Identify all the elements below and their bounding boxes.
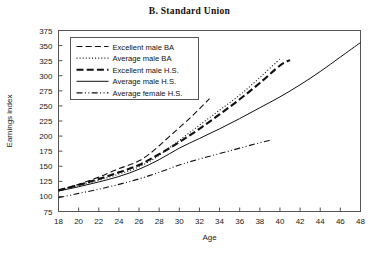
y-tick-label: 150	[39, 162, 53, 171]
x-tick-label: 36	[235, 217, 244, 226]
x-tick-label: 28	[155, 217, 164, 226]
y-axis-title: Earnings index	[5, 95, 14, 148]
y-tick-label: 300	[39, 72, 53, 81]
y-tick-label: 175	[39, 147, 53, 156]
legend-label: Excellent male H.S.	[113, 66, 179, 75]
y-tick-label: 200	[39, 132, 53, 141]
y-tick-label: 125	[39, 177, 53, 186]
x-tick-label: 46	[336, 217, 345, 226]
x-tick-label: 34	[215, 217, 224, 226]
x-axis-ticks: 18202224262830323436384042444648	[54, 208, 365, 226]
x-tick-label: 22	[94, 217, 103, 226]
legend-label: Average male H.S.	[113, 77, 177, 86]
y-tick-label: 75	[44, 208, 53, 217]
x-tick-label: 32	[195, 217, 204, 226]
x-tick-label: 30	[175, 217, 184, 226]
x-tick-label: 20	[74, 217, 83, 226]
y-tick-label: 250	[39, 102, 53, 111]
y-tick-label: 275	[39, 87, 53, 96]
x-tick-label: 18	[54, 217, 63, 226]
chart-legend: Excellent male BAAverage male BAExcellen…	[71, 38, 199, 100]
line-chart: 75100125150175200225250275300325350375 1…	[0, 0, 379, 261]
y-tick-label: 100	[39, 192, 53, 201]
x-tick-label: 42	[296, 217, 305, 226]
y-tick-label: 325	[39, 57, 53, 66]
legend-label: Average male BA	[113, 54, 173, 63]
series-line	[59, 140, 270, 197]
legend-label: Excellent male BA	[113, 43, 176, 52]
legend-label: Average female H.S.	[113, 89, 183, 98]
x-tick-label: 24	[114, 217, 123, 226]
x-tick-label: 40	[276, 217, 285, 226]
x-tick-label: 44	[316, 217, 325, 226]
x-tick-label: 38	[255, 217, 264, 226]
chart-page: B. Standard Union 7510012515017520022525…	[0, 0, 379, 261]
y-tick-label: 375	[39, 27, 53, 36]
y-tick-label: 225	[39, 117, 53, 126]
x-tick-label: 48	[356, 217, 365, 226]
x-axis-title: Age	[202, 233, 217, 242]
y-tick-label: 350	[39, 42, 53, 51]
x-tick-label: 26	[135, 217, 144, 226]
